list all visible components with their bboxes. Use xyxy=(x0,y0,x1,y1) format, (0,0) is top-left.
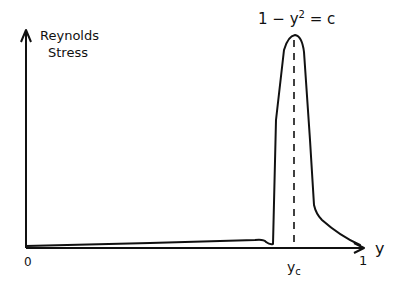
critical-point-subscript: c xyxy=(295,266,301,277)
x-axis-label: y xyxy=(375,239,384,258)
origin-label: 0 xyxy=(24,255,32,269)
critical-point-y: y xyxy=(287,259,295,275)
annotation-prefix: 1 − y xyxy=(258,10,299,28)
critical-condition-annotation: 1 − y2 = c xyxy=(258,9,335,28)
reynolds-stress-diagram: Reynolds Stress 1 − y2 = c 0 yc 1 y xyxy=(0,0,407,283)
annotation-suffix: = c xyxy=(305,10,335,28)
y-axis-label-line2: Stress xyxy=(48,45,88,60)
reynolds-stress-curve xyxy=(26,35,360,246)
critical-point-label: yc xyxy=(287,259,301,277)
y-axis-label-line1: Reynolds xyxy=(40,28,99,43)
x-end-label: 1 xyxy=(359,253,367,268)
